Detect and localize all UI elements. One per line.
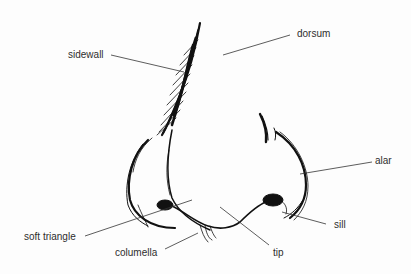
leader-columella [165,233,198,249]
label-tip: tip [273,248,284,258]
lower-contour [172,200,287,242]
leader-dorsum [223,35,290,55]
right-ala [276,132,308,220]
left-nostril [157,200,173,210]
leader-sidewall [111,55,184,72]
leader-sill [282,212,326,224]
right-sidewall-shading [260,114,276,142]
nose-diagram: sidewall dorsum alar soft triangle sill … [0,0,411,274]
sidewall-shading [157,23,200,135]
label-sill: sill [334,220,346,230]
leader-alar [300,162,372,174]
label-alar: alar [375,156,392,166]
label-columella: columella [115,248,157,258]
leader-lines [85,35,372,249]
leader-tip [220,207,269,245]
label-dorsum: dorsum [297,29,330,39]
label-sidewall: sidewall [68,50,104,60]
label-soft-triangle: soft triangle [24,232,76,242]
